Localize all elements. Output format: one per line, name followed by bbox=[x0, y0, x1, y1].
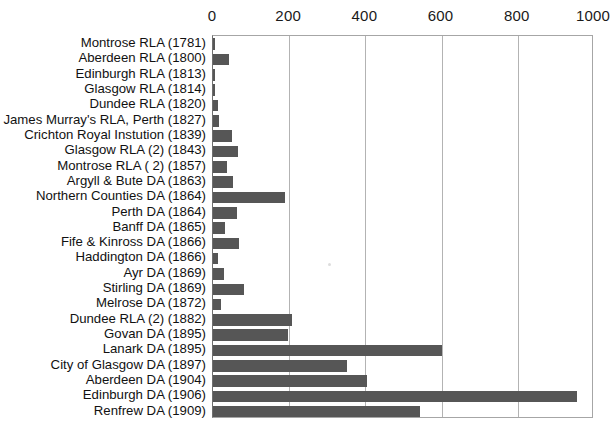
bar bbox=[213, 130, 232, 142]
bar-row bbox=[213, 220, 592, 235]
x-tick-label: 1000 bbox=[576, 6, 610, 26]
plot-area bbox=[212, 35, 593, 418]
y-axis-category-label: James Murray's RLA, Perth (1827) bbox=[3, 112, 206, 127]
bar bbox=[213, 54, 229, 66]
y-axis-category-label: Ayr DA (1869) bbox=[123, 265, 206, 280]
bar-row bbox=[213, 235, 592, 250]
bar-row bbox=[213, 67, 592, 82]
y-axis-category-label: Aberdeen DA (1904) bbox=[86, 372, 206, 387]
bar-row bbox=[213, 189, 592, 204]
bar bbox=[213, 38, 215, 50]
bar-chart: 02004006008001000 Montrose RLA (1781)Abe… bbox=[0, 0, 612, 426]
bar bbox=[213, 146, 238, 158]
y-axis-category-label: Montrose RLA ( 2) (1857) bbox=[57, 158, 206, 173]
x-tick-label: 200 bbox=[275, 6, 301, 26]
y-axis-category-label: Montrose RLA (1781) bbox=[81, 35, 206, 50]
bar-row bbox=[213, 250, 592, 265]
bar bbox=[213, 391, 577, 403]
bar bbox=[213, 299, 221, 311]
bar-row bbox=[213, 36, 592, 51]
y-axis-category-label: Melrose DA (1872) bbox=[96, 295, 206, 310]
bar-row bbox=[213, 97, 592, 112]
bar bbox=[213, 253, 218, 265]
y-axis-category-label: Dundee RLA (2) (1882) bbox=[70, 311, 206, 326]
bar-row bbox=[213, 342, 592, 357]
bar bbox=[213, 161, 227, 173]
y-axis-category-label: Argyll & Bute DA (1863) bbox=[67, 173, 206, 188]
bar bbox=[213, 314, 292, 326]
bar-row bbox=[213, 296, 592, 311]
y-axis-category-label: Edinburgh RLA (1813) bbox=[76, 66, 207, 81]
bars bbox=[213, 36, 592, 417]
bar bbox=[213, 360, 347, 372]
bar bbox=[213, 284, 244, 296]
bar-row bbox=[213, 388, 592, 403]
bar-row bbox=[213, 113, 592, 128]
bar-row bbox=[213, 143, 592, 158]
bar-row bbox=[213, 82, 592, 97]
bar bbox=[213, 69, 215, 81]
bar-row bbox=[213, 51, 592, 66]
y-axis-category-label: Aberdeen RLA (1800) bbox=[78, 50, 206, 65]
bar-row bbox=[213, 373, 592, 388]
bar-row bbox=[213, 266, 592, 281]
bar bbox=[213, 222, 225, 234]
y-axis-category-label: Govan DA (1895) bbox=[104, 326, 206, 341]
y-axis-category-label: Edinburgh DA (1906) bbox=[83, 387, 206, 402]
y-axis-category-label: Banff DA (1865) bbox=[112, 219, 206, 234]
bar-row bbox=[213, 205, 592, 220]
bar bbox=[213, 207, 237, 219]
y-axis-category-label: Perth DA (1864) bbox=[111, 204, 206, 219]
bar-row bbox=[213, 327, 592, 342]
bar-row bbox=[213, 159, 592, 174]
bar-row bbox=[213, 358, 592, 373]
x-tick-label: 400 bbox=[352, 6, 378, 26]
y-axis-category-label: Northern Counties DA (1864) bbox=[36, 188, 206, 203]
bar bbox=[213, 84, 215, 96]
y-axis-category-label: Fife & Kinross DA (1866) bbox=[61, 234, 206, 249]
x-tick-label: 600 bbox=[428, 6, 454, 26]
bar bbox=[213, 238, 239, 250]
y-axis-category-labels: Montrose RLA (1781)Aberdeen RLA (1800)Ed… bbox=[0, 35, 206, 418]
speck-artifact bbox=[328, 263, 331, 266]
bar-row bbox=[213, 404, 592, 418]
bar bbox=[213, 345, 442, 357]
bar-row bbox=[213, 281, 592, 296]
bar bbox=[213, 406, 420, 418]
y-axis-category-label: Stirling DA (1869) bbox=[103, 280, 206, 295]
x-tick-label: 0 bbox=[208, 6, 217, 26]
bar bbox=[213, 100, 218, 112]
bar-row bbox=[213, 174, 592, 189]
y-axis-category-label: Lanark DA (1895) bbox=[103, 341, 206, 356]
bar bbox=[213, 329, 288, 341]
y-axis-category-label: Glasgow RLA (2) (1843) bbox=[65, 142, 206, 157]
y-axis-category-label: Crichton Royal Instution (1839) bbox=[24, 127, 206, 142]
bar bbox=[213, 115, 219, 127]
y-axis-category-label: Renfrew DA (1909) bbox=[94, 403, 206, 418]
bar bbox=[213, 176, 233, 188]
y-axis-category-label: Haddington DA (1866) bbox=[76, 249, 207, 264]
y-axis-category-label: Glasgow RLA (1814) bbox=[84, 81, 206, 96]
x-axis-tick-labels: 02004006008001000 bbox=[0, 6, 612, 32]
y-axis-category-label: City of Glasgow DA (1897) bbox=[51, 357, 206, 372]
x-tick-label: 800 bbox=[504, 6, 530, 26]
bar-row bbox=[213, 312, 592, 327]
bar bbox=[213, 268, 224, 280]
bar-row bbox=[213, 128, 592, 143]
bar bbox=[213, 192, 285, 204]
bar bbox=[213, 375, 367, 387]
y-axis-category-label: Dundee RLA (1820) bbox=[89, 96, 206, 111]
